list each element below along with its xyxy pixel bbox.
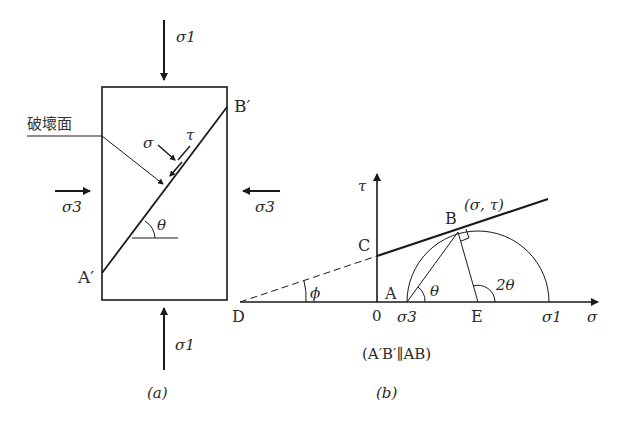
normal-stress-label: σ: [143, 134, 154, 152]
sigma-axis-label: σ: [587, 308, 598, 326]
shear-stress-label: τ: [186, 126, 195, 144]
phi-label: ϕ: [310, 284, 320, 302]
failure-plane-line: [102, 107, 227, 273]
origin-label: 0: [372, 307, 382, 325]
mohr-coulomb-figure: σ1 σ1 σ3 σ3 B′ A′ 破壞面 σ τ θ (a) σ: [0, 0, 620, 426]
right-angle-mark: [461, 229, 469, 241]
phi-arc: [304, 281, 306, 302]
sigma3-left-label: σ3: [62, 198, 82, 216]
failure-envelope-dashed: [240, 256, 377, 302]
point-a-label: A: [384, 284, 397, 303]
sigma3-right-label: σ3: [255, 198, 275, 216]
specimen-rectangle: [102, 87, 227, 300]
panel-a-caption: (a): [147, 384, 168, 402]
point-a-prime-label: A′: [77, 267, 94, 287]
theta-arc: [145, 221, 155, 238]
tau-axis-label: τ: [358, 177, 367, 195]
theta-arc-b: [418, 287, 425, 302]
point-b-prime-label: B′: [234, 96, 250, 116]
two-theta-arc: [473, 285, 495, 302]
two-theta-label: 2θ: [495, 276, 515, 294]
line-be: [458, 232, 478, 302]
theta-label-b: θ: [430, 282, 439, 300]
sigma1-bottom-label: σ1: [175, 336, 195, 354]
sigma3-tick-label: σ3: [397, 308, 417, 326]
panel-b-caption: (b): [376, 384, 397, 402]
point-d-label: D: [232, 307, 245, 326]
point-c-label: C: [358, 236, 370, 255]
failure-plane-label: 破壞面: [27, 115, 72, 133]
theta-label: θ: [157, 216, 166, 234]
parallel-note: (A′B′∥AB): [362, 345, 431, 363]
panel-a: σ1 σ1 σ3 σ3 B′ A′ 破壞面 σ τ θ (a): [27, 20, 280, 402]
sigma1-tick-label: σ1: [542, 308, 562, 326]
point-b-coords-label: (σ, τ): [464, 196, 504, 214]
panel-b: σ τ 0 D C A B (σ, τ) E σ3 σ1 θ 2θ ϕ (A′B…: [232, 174, 598, 402]
normal-stress-arrow: [158, 145, 175, 160]
point-e-label: E: [471, 307, 483, 326]
mohr-circle: [407, 231, 549, 302]
sigma1-top-label: σ1: [176, 28, 196, 46]
point-b-label: B: [445, 209, 457, 228]
